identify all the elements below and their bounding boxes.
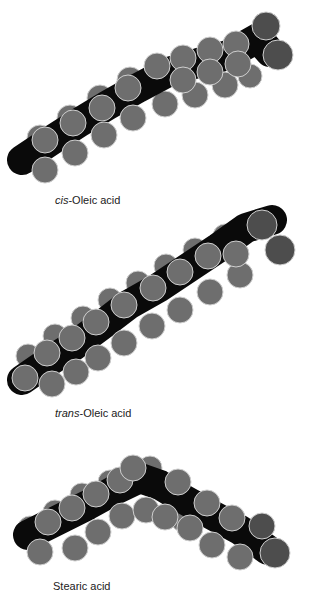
hydrogen-atom [27, 539, 53, 565]
hydrogen-atom [62, 535, 88, 561]
hydrogen-atom [120, 455, 146, 481]
label-name: Stearic acid [53, 580, 110, 592]
hydrogen-atom [85, 519, 111, 545]
molecule-label-stearic: Stearic acid [53, 580, 110, 592]
hydrogen-atom [109, 503, 135, 529]
oxygen-atom [249, 513, 275, 539]
hydrogen-atom [199, 532, 225, 558]
oxygen-atom [260, 538, 290, 568]
hydrogen-atom [152, 504, 178, 530]
space-filling-model-stearic [0, 0, 310, 603]
hydrogen-atom [227, 544, 253, 570]
hydrogen-atom [219, 505, 245, 531]
hydrogen-atom [35, 509, 61, 535]
hydrogen-atom [177, 515, 203, 541]
hydrogen-atom [194, 490, 220, 516]
hydrogen-atom [165, 469, 191, 495]
hydrogen-atom [59, 495, 85, 521]
hydrogen-atom [83, 481, 109, 507]
